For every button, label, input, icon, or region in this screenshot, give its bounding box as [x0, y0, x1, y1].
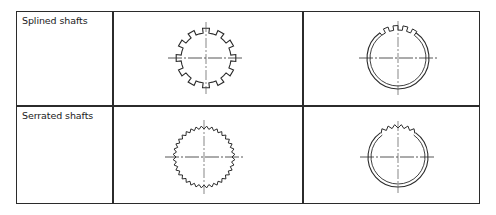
serrated-hub-figure — [0, 0, 496, 215]
